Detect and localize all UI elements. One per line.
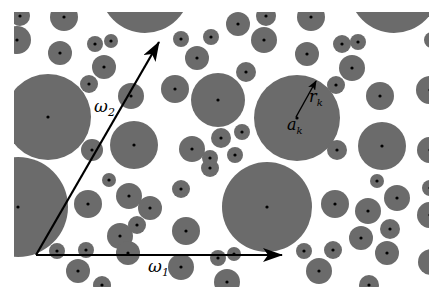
disk-center-dot xyxy=(102,65,105,68)
disk-center-dot xyxy=(264,14,267,17)
disk-center-dot xyxy=(265,205,268,208)
disk-center-dot xyxy=(225,280,228,283)
disk-center-dot xyxy=(340,42,343,45)
disk-center-dot xyxy=(333,202,336,205)
disk-center-dot xyxy=(195,56,198,59)
disk-center-dot xyxy=(55,249,58,252)
disk-center-dot xyxy=(208,166,211,169)
disk-center-dot xyxy=(93,42,96,45)
disk-center-dot xyxy=(429,260,432,263)
disk-center-dot xyxy=(244,70,247,73)
disk-center-dot xyxy=(262,38,265,41)
disk xyxy=(416,76,443,104)
disk xyxy=(417,137,443,163)
disk-center-dot xyxy=(127,194,130,197)
disk xyxy=(422,180,438,196)
disk-center-dot xyxy=(428,88,431,91)
disk-center-dot xyxy=(179,37,182,40)
disk xyxy=(0,157,68,257)
disk xyxy=(417,202,443,228)
disk-center-dot xyxy=(62,15,65,18)
disk-center-dot xyxy=(18,14,21,17)
disk-center-dot xyxy=(179,265,182,268)
disk-center-dot xyxy=(46,115,49,118)
disk-center-dot xyxy=(388,227,391,230)
disk xyxy=(349,0,439,33)
disk-center-dot xyxy=(173,87,176,90)
disk-center-dot xyxy=(58,51,61,54)
disk xyxy=(424,32,440,48)
disk-center-dot xyxy=(219,136,222,139)
disk-center-dot xyxy=(359,236,362,239)
disk-center-dot xyxy=(302,249,305,252)
disk-center-dot xyxy=(90,148,93,151)
disk-center-dot xyxy=(236,22,239,25)
disk xyxy=(100,0,190,33)
disk xyxy=(418,249,443,275)
disk-center-dot xyxy=(233,153,236,156)
disk-layer xyxy=(0,0,443,295)
disk-center-dot xyxy=(335,148,338,151)
disk-center-dot xyxy=(76,269,79,272)
disk-center-dot xyxy=(15,38,18,41)
disk-center-dot xyxy=(428,148,431,151)
disk-center-dot xyxy=(430,38,433,41)
disk-center-dot xyxy=(378,94,381,97)
disk-center-dot xyxy=(118,234,121,237)
disk-center-dot xyxy=(86,202,89,205)
disk-center-dot xyxy=(109,39,112,42)
disk-center-dot xyxy=(16,205,19,208)
disk-center-dot xyxy=(395,196,398,199)
disk-center-dot xyxy=(334,83,337,86)
disk-center-dot xyxy=(375,179,378,182)
disk-center-dot xyxy=(135,223,138,226)
disk-center-dot xyxy=(331,248,334,251)
disk-center-dot xyxy=(240,130,243,133)
disk-packing-diagram: ω2 ω1 rk ak xyxy=(0,0,443,296)
disk-center-dot xyxy=(129,94,132,97)
disk-center-dot xyxy=(380,144,383,147)
disk-center-dot xyxy=(216,256,219,259)
disk-center-dot xyxy=(428,186,431,189)
disk-center-dot xyxy=(132,143,135,146)
disk-center-dot xyxy=(84,248,87,251)
omega1-label: ω1 xyxy=(148,256,169,279)
disk-center-dot xyxy=(148,206,151,209)
disk-center-dot xyxy=(309,15,312,18)
omega2-label: ω2 xyxy=(94,96,115,119)
disk-center-dot xyxy=(350,66,353,69)
disk-center-dot xyxy=(305,52,308,55)
disk-center-dot xyxy=(317,269,320,272)
disk-center-dot xyxy=(428,213,431,216)
disk-center-dot xyxy=(184,229,187,232)
disk-center-dot xyxy=(107,178,110,181)
disk-center-dot xyxy=(367,283,370,286)
disk-center-dot xyxy=(87,82,90,85)
disk-center-dot xyxy=(385,251,388,254)
disk-center-dot xyxy=(179,187,182,190)
disk-center-dot xyxy=(209,35,212,38)
disk-center-dot xyxy=(190,147,193,150)
disk-center-dot xyxy=(100,283,103,286)
disk-center-dot xyxy=(216,98,219,101)
disk-center-dot xyxy=(208,156,211,159)
disk-center-dot xyxy=(356,40,359,43)
disk-center-dot xyxy=(366,209,369,212)
